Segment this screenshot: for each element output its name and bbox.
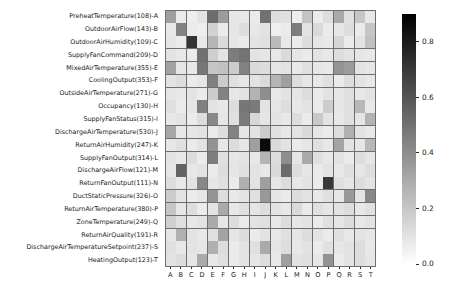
heatmap-cell xyxy=(166,36,176,48)
heatmap-cell xyxy=(260,36,270,48)
heatmap-cell xyxy=(239,113,249,125)
heatmap-cell xyxy=(323,190,333,202)
colorbar-tick-text: 0.4 xyxy=(422,149,434,156)
heatmap-cell xyxy=(208,113,218,125)
heatmap-cell xyxy=(229,241,239,253)
heatmap-cell xyxy=(187,190,197,202)
heatmap-cell xyxy=(323,36,333,48)
heatmap-cell xyxy=(365,23,375,35)
heatmap-cell xyxy=(250,139,260,151)
heatmap-cell xyxy=(365,254,375,266)
heatmap-cell xyxy=(260,177,270,189)
heatmap-cell xyxy=(355,177,365,189)
heatmap-cell xyxy=(229,100,239,112)
heatmap-cell xyxy=(313,241,323,253)
heatmap-cell xyxy=(313,100,323,112)
y-axis-label: OutsideAirTemperature(271)-G xyxy=(0,87,161,100)
heatmap-cell xyxy=(292,139,302,151)
heatmap-cell xyxy=(355,36,365,48)
heatmap-cell xyxy=(166,190,176,202)
heatmap-cell xyxy=(323,75,333,87)
heatmap-cell xyxy=(166,113,176,125)
heatmap-cell xyxy=(260,113,270,125)
heatmap-cell xyxy=(344,254,354,266)
heatmap-cell xyxy=(281,88,291,100)
heatmap-cell xyxy=(166,164,176,176)
heatmap-cell xyxy=(260,216,270,228)
heatmap-cell xyxy=(271,23,281,35)
heatmap-cell xyxy=(281,203,291,215)
heatmap-cell xyxy=(260,241,270,253)
colorbar-gradient xyxy=(402,14,416,264)
heatmap-cell xyxy=(313,23,323,35)
heatmap-cell xyxy=(292,88,302,100)
heatmap-cell xyxy=(292,216,302,228)
heatmap-cell xyxy=(302,203,312,215)
heatmap-cell xyxy=(313,254,323,266)
y-axis-label: PreheatTemperature(108)-A xyxy=(0,10,161,23)
heatmap-cell xyxy=(218,62,228,74)
heatmap-cell xyxy=(344,88,354,100)
heatmap-cell xyxy=(313,203,323,215)
heatmap-cell xyxy=(187,75,197,87)
heatmap-cell xyxy=(271,11,281,23)
heatmap-cell xyxy=(166,152,176,164)
heatmap-cell xyxy=(197,152,207,164)
heatmap-cell xyxy=(218,229,228,241)
y-axis-label: HeatingOutput(123)-T xyxy=(0,254,161,267)
colorbar-tick-mark xyxy=(416,264,419,265)
heatmap-cell xyxy=(313,62,323,74)
heatmap-cell xyxy=(323,203,333,215)
heatmap-cell xyxy=(197,229,207,241)
heatmap-cell xyxy=(334,113,344,125)
heatmap-cell xyxy=(302,126,312,138)
heatmap-cell xyxy=(176,23,186,35)
heatmap-cell xyxy=(292,241,302,253)
heatmap-cell xyxy=(292,229,302,241)
heatmap-cell xyxy=(197,203,207,215)
heatmap-cell xyxy=(197,190,207,202)
heatmap-cell xyxy=(334,254,344,266)
heatmap-cell xyxy=(292,126,302,138)
heatmap-cell xyxy=(323,113,333,125)
heatmap-cell xyxy=(302,229,312,241)
heatmap-cell xyxy=(365,203,375,215)
heatmap-cell xyxy=(271,62,281,74)
heatmap-cell xyxy=(208,229,218,241)
heatmap-cell xyxy=(187,100,197,112)
heatmap-cell xyxy=(260,164,270,176)
heatmap-cell xyxy=(355,88,365,100)
heatmap-cell xyxy=(197,113,207,125)
heatmap-cell xyxy=(166,229,176,241)
heatmap-cell xyxy=(334,23,344,35)
heatmap-cell xyxy=(208,62,218,74)
heatmap-cell xyxy=(208,216,218,228)
heatmap-cell xyxy=(260,23,270,35)
y-axis-label: ReturnAirHumidity(247)-K xyxy=(0,138,161,151)
heatmap-cell xyxy=(323,100,333,112)
heatmap-cell xyxy=(250,49,260,61)
heatmap-grid xyxy=(165,10,376,267)
heatmap-cell xyxy=(313,36,323,48)
heatmap-cell xyxy=(176,75,186,87)
heatmap-cell xyxy=(176,152,186,164)
heatmap-cell xyxy=(176,11,186,23)
heatmap-cell xyxy=(344,100,354,112)
heatmap-cell xyxy=(302,113,312,125)
heatmap-cell xyxy=(355,216,365,228)
heatmap-cell xyxy=(355,126,365,138)
heatmap-cell xyxy=(250,88,260,100)
heatmap-cell xyxy=(292,152,302,164)
heatmap-cell xyxy=(229,23,239,35)
heatmap-cell xyxy=(334,88,344,100)
heatmap-figure: PreheatTemperature(108)-AOutdoorAirFlow(… xyxy=(0,0,474,294)
x-axis-labels: ABCDEFGHIJKLMNOPQRST xyxy=(165,268,376,282)
heatmap-cell xyxy=(281,126,291,138)
heatmap-cell xyxy=(302,23,312,35)
heatmap-cell xyxy=(344,49,354,61)
y-axis-label: SupplyFanCommand(209)-D xyxy=(0,49,161,62)
heatmap-cell xyxy=(344,126,354,138)
colorbar-tick-labels: 0.00.20.40.60.8 xyxy=(416,14,472,264)
heatmap-cell xyxy=(208,203,218,215)
heatmap-cell xyxy=(176,241,186,253)
